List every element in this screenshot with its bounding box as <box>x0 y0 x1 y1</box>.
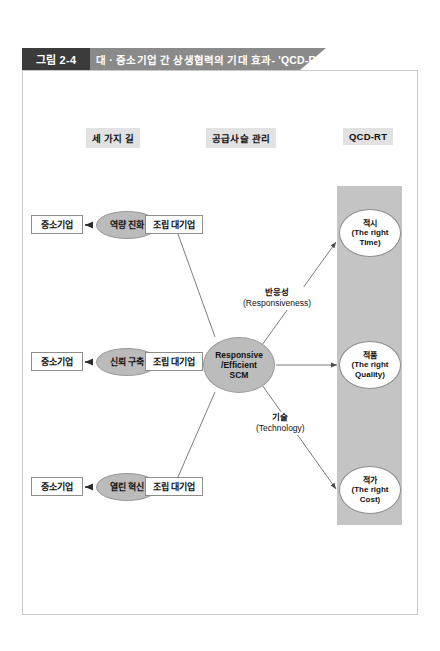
outcome-quality-korean: 적품 <box>363 351 377 360</box>
technology-english: (Technology) <box>256 423 305 434</box>
node-outcome-right-time: 적시 (The right Time) <box>339 209 401 257</box>
outcome-quality-english-2: Quality) <box>355 370 385 379</box>
technology-korean: 기술 <box>256 412 305 423</box>
node-large-corp-row2: 조립 대기업 <box>145 352 203 371</box>
figure-banner: 그림 2-4 대 · 중소기업 간 상생협력의 기대 효과- 'QCD-RT' <box>22 48 326 70</box>
edge-label-technology: 기술 (Technology) <box>256 412 305 435</box>
responsiveness-korean: 반응성 <box>243 287 311 298</box>
scm-line-1: Responsive <box>215 350 263 360</box>
node-responsive-efficient-scm: Responsive /Efficient SCM <box>203 337 275 393</box>
outcome-time-english-1: (The right <box>352 228 389 237</box>
column-heading-qcd-rt: QCD-RT <box>343 128 393 145</box>
responsiveness-english: (Responsiveness) <box>243 298 311 309</box>
edge-label-responsiveness: 반응성 (Responsiveness) <box>243 287 311 310</box>
node-sme-row2: 중소기업 <box>31 352 83 371</box>
scm-line-2: /Efficient <box>221 360 257 370</box>
outcome-quality-english-1: (The right <box>352 360 389 369</box>
scm-line-3: SCM <box>230 370 249 380</box>
figure-number: 그림 2-4 <box>22 48 90 70</box>
node-large-corp-row1: 조립 대기업 <box>145 215 203 234</box>
outcome-cost-english-2: Cost) <box>360 495 380 504</box>
node-sme-row1: 중소기업 <box>31 215 83 234</box>
node-large-corp-row3: 조립 대기업 <box>145 477 203 496</box>
column-heading-three-paths: 세 가지 길 <box>86 128 140 148</box>
figure-title: 대 · 중소기업 간 상생협력의 기대 효과- 'QCD-RT' <box>96 48 326 70</box>
outcome-time-english-2: Time) <box>359 238 380 247</box>
node-outcome-right-quality: 적품 (The right Quality) <box>339 341 401 389</box>
outcome-cost-english-1: (The right <box>352 485 389 494</box>
node-sme-row3: 중소기업 <box>31 477 83 496</box>
column-heading-supply-chain-management: 공급사슬 관리 <box>206 128 276 148</box>
outcome-time-korean: 적시 <box>363 219 377 228</box>
node-outcome-right-cost: 적가 (The right Cost) <box>339 466 401 514</box>
outcome-cost-korean: 적가 <box>363 476 377 485</box>
